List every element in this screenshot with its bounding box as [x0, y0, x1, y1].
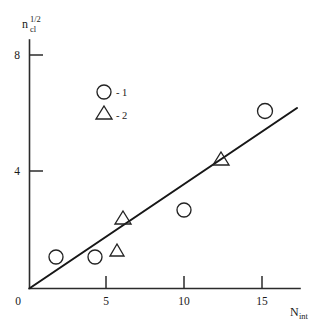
- y-axis-title-base: n: [22, 17, 28, 31]
- data-point-circle: [258, 104, 273, 119]
- series-1-markers: [49, 104, 273, 265]
- x-axis-title: N int: [290, 305, 309, 321]
- x-tick-label-0: 0: [15, 295, 21, 307]
- x-tick-label-15: 15: [256, 295, 268, 307]
- y-axis-title-superscript: 1/2: [30, 14, 41, 24]
- x-axis-title-base: N: [290, 305, 299, 319]
- legend-label-1: - 1: [116, 87, 127, 98]
- chart-figure: n 1/2 cl 8 4 0 5 10 15 N int: [0, 0, 334, 326]
- x-axis-title-subscript: int: [299, 311, 309, 321]
- legend-label-2: - 2: [116, 110, 127, 121]
- y-axis-title-subscript: cl: [30, 24, 37, 34]
- y-axis-title: n 1/2 cl: [22, 14, 41, 34]
- data-point-circle: [49, 250, 63, 264]
- y-tick-label-8: 8: [14, 49, 20, 61]
- x-tick-label-5: 5: [103, 295, 109, 307]
- series-2-markers: [110, 152, 229, 256]
- data-point-triangle: [110, 244, 124, 256]
- data-point-circle: [177, 203, 191, 217]
- x-axis-ticks: 0 5 10 15: [15, 276, 268, 307]
- scatter-plot-svg: n 1/2 cl 8 4 0 5 10 15 N int: [0, 0, 334, 326]
- data-point-circle: [88, 250, 102, 264]
- y-axis-ticks: 8 4: [14, 49, 43, 177]
- y-tick-label-4: 4: [14, 165, 20, 177]
- fit-line: [30, 108, 297, 288]
- legend-marker-triangle: [96, 106, 112, 119]
- chart-legend: - 1 - 2: [96, 85, 127, 121]
- x-tick-label-10: 10: [178, 295, 190, 307]
- legend-marker-circle: [97, 85, 111, 99]
